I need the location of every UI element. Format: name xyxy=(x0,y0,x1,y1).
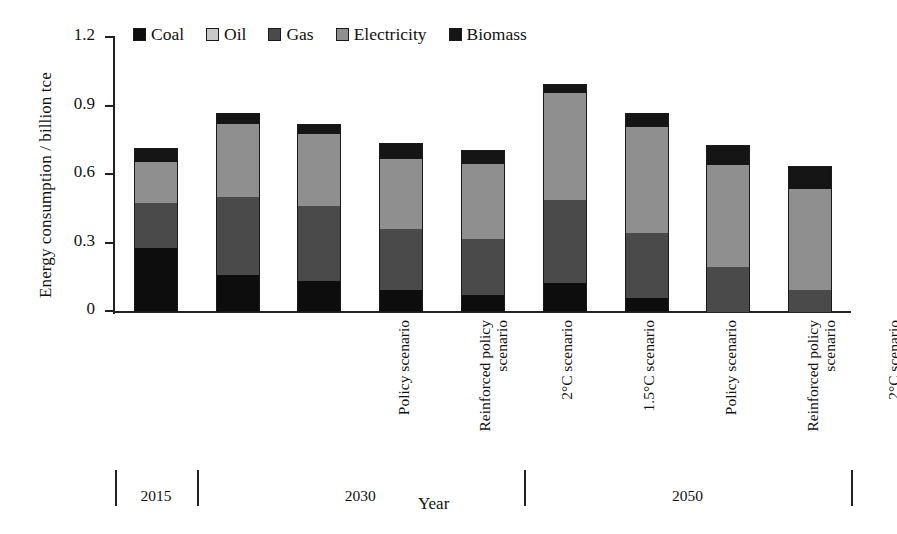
legend-label: Electricity xyxy=(354,24,427,45)
bar-segment-biomass[interactable] xyxy=(461,150,505,164)
bar-segment-gas[interactable] xyxy=(543,200,587,283)
bar-segment-coal[interactable] xyxy=(625,298,669,312)
bar-segment-electricity[interactable] xyxy=(706,165,750,267)
category-label: 2°C scenario xyxy=(885,320,897,470)
bar-segment-coal[interactable] xyxy=(543,283,587,312)
y-tick: 0.9 xyxy=(105,105,113,107)
legend-swatch-icon xyxy=(206,28,219,41)
bar-segment-electricity[interactable] xyxy=(297,134,341,206)
group-label: 2050 xyxy=(647,487,727,505)
group-separator xyxy=(851,470,853,506)
bar-segment-gas[interactable] xyxy=(706,267,750,312)
bar-stack[interactable] xyxy=(216,113,260,312)
legend-label: Biomass xyxy=(467,24,527,45)
legend-swatch-icon xyxy=(268,28,281,41)
y-tick-label: 1.2 xyxy=(74,25,95,45)
bar-stack[interactable] xyxy=(379,143,423,312)
y-tick: 1.2 xyxy=(105,36,113,38)
group-separator xyxy=(115,470,117,506)
bar-segment-gas[interactable] xyxy=(461,239,505,295)
legend-item-biomass[interactable]: Biomass xyxy=(449,24,527,45)
bar-stack[interactable] xyxy=(788,166,832,312)
bar-segment-gas[interactable] xyxy=(216,197,260,275)
bar-segment-biomass[interactable] xyxy=(297,124,341,134)
legend-label: Gas xyxy=(286,24,313,45)
group-label: 2015 xyxy=(116,487,196,505)
bar-stack[interactable] xyxy=(461,150,505,312)
bar-segment-electricity[interactable] xyxy=(543,93,587,200)
y-tick-label: 0.3 xyxy=(74,231,95,251)
category-label: Reinforced policy scenario xyxy=(476,320,511,470)
bar-stack[interactable] xyxy=(297,124,341,312)
bar-segment-gas[interactable] xyxy=(379,229,423,290)
bar-segment-gas[interactable] xyxy=(297,206,341,281)
bar-stack[interactable] xyxy=(543,84,587,312)
y-tick-label: 0.6 xyxy=(74,162,95,182)
bar-segment-biomass[interactable] xyxy=(706,145,750,165)
legend-label: Coal xyxy=(151,24,184,45)
bar-segment-coal[interactable] xyxy=(461,295,505,312)
bar-segment-coal[interactable] xyxy=(216,275,260,312)
legend-label: Oil xyxy=(224,24,246,45)
category-label: Policy scenario xyxy=(395,320,412,470)
chart-legend: CoalOilGasElectricityBiomass xyxy=(133,24,527,45)
y-tick: 0.3 xyxy=(105,242,113,244)
bar-segment-electricity[interactable] xyxy=(625,127,669,233)
bar-stack[interactable] xyxy=(134,148,178,312)
bar-segment-biomass[interactable] xyxy=(543,84,587,93)
bar-segment-biomass[interactable] xyxy=(788,166,832,189)
bar-segment-gas[interactable] xyxy=(788,290,832,312)
bar-stack[interactable] xyxy=(706,145,750,312)
bar-segment-biomass[interactable] xyxy=(134,148,178,162)
category-label: Reinforced policy scenario xyxy=(804,320,839,470)
category-label: Policy scenario xyxy=(722,320,739,470)
bar-segment-electricity[interactable] xyxy=(134,162,178,203)
y-tick-label: 0.9 xyxy=(74,94,95,114)
group-separator xyxy=(197,470,199,506)
group-separator xyxy=(524,470,526,506)
plot-area: 00.30.60.91.2 xyxy=(113,38,849,312)
legend-item-oil[interactable]: Oil xyxy=(206,24,246,45)
stacked-bar-chart: Energy consumption / billion tce 00.30.6… xyxy=(0,0,897,534)
legend-swatch-icon xyxy=(449,28,462,41)
bar-segment-coal[interactable] xyxy=(134,248,178,312)
bar-segment-electricity[interactable] xyxy=(788,189,832,290)
y-axis-title: Energy consumption / billion tce xyxy=(36,35,56,335)
y-tick: 0 xyxy=(105,310,113,312)
bar-segment-coal[interactable] xyxy=(379,290,423,312)
category-label: 2°C scenario xyxy=(558,320,575,470)
bar-segment-biomass[interactable] xyxy=(379,143,423,159)
x-axis-title: Year xyxy=(418,494,449,514)
bar-segment-biomass[interactable] xyxy=(625,113,669,127)
group-label: 2030 xyxy=(320,487,400,505)
bar-segment-electricity[interactable] xyxy=(379,159,423,229)
legend-item-electricity[interactable]: Electricity xyxy=(336,24,427,45)
bar-segment-electricity[interactable] xyxy=(216,124,260,197)
bar-stack[interactable] xyxy=(625,113,669,312)
legend-item-coal[interactable]: Coal xyxy=(133,24,184,45)
category-label: 1.5°C scenario xyxy=(640,320,657,470)
bar-segment-gas[interactable] xyxy=(134,203,178,248)
bar-segment-biomass[interactable] xyxy=(216,113,260,124)
legend-swatch-icon xyxy=(336,28,349,41)
legend-swatch-icon xyxy=(133,28,146,41)
bar-segment-coal[interactable] xyxy=(297,281,341,312)
bar-segment-electricity[interactable] xyxy=(461,164,505,239)
y-tick: 0.6 xyxy=(105,173,113,175)
y-tick-label: 0 xyxy=(87,299,96,319)
bar-segment-gas[interactable] xyxy=(625,233,669,298)
legend-item-gas[interactable]: Gas xyxy=(268,24,313,45)
